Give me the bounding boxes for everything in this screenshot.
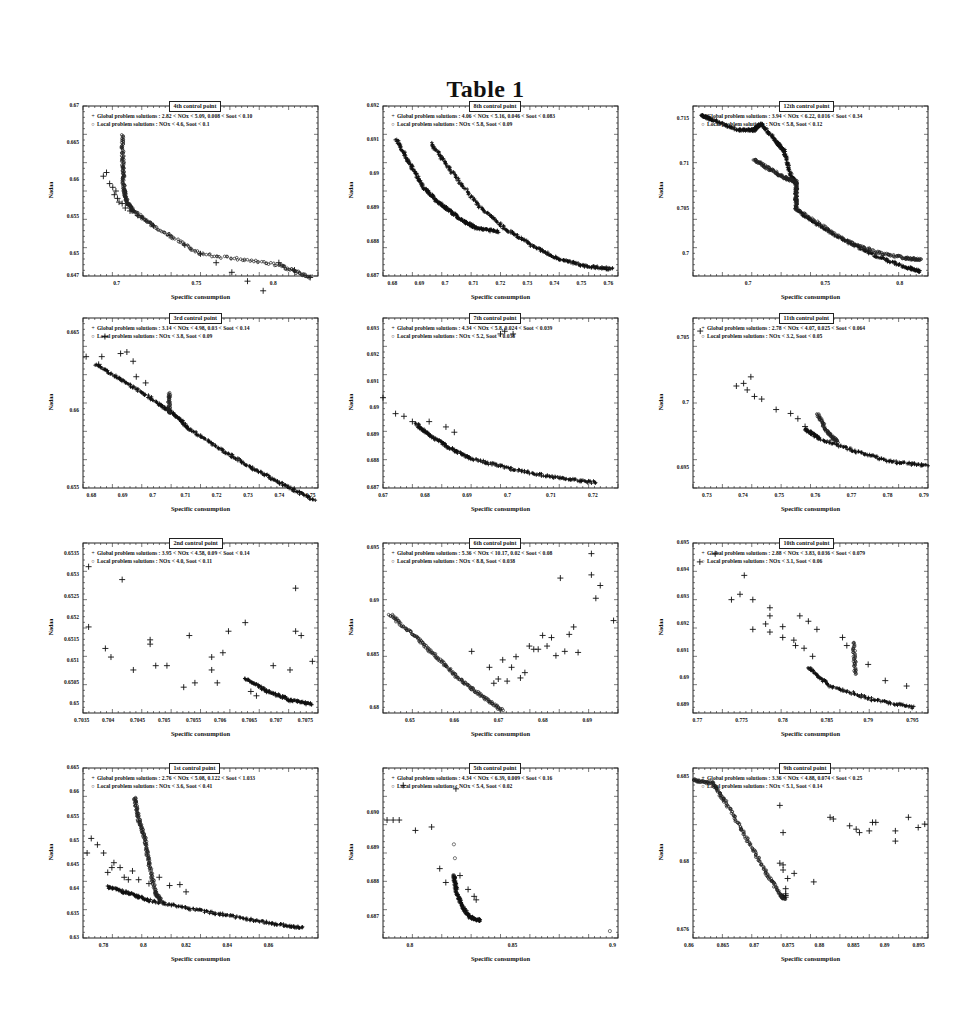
plot-area xyxy=(40,535,345,760)
y-tick-label: 0.690 xyxy=(367,809,379,815)
chart-title: 7th control point xyxy=(469,313,522,324)
legend-local-label: Local problem solutions : NOx < 5.4, Soo… xyxy=(397,783,512,789)
y-tick-label: 0.63 xyxy=(69,934,79,940)
chart-legend: +Global problem solutions : 4.34 < NOx <… xyxy=(389,324,552,340)
plus-marker-icon: + xyxy=(89,112,97,120)
x-axis-label: Specific consumption xyxy=(776,505,846,512)
chart-legend: +Global problem solutions : 2.78 < NOx <… xyxy=(699,324,865,340)
x-tick-label: 0.7075 xyxy=(298,717,313,723)
legend-local-label: Local problem solutions : NOx < 8.8, Soo… xyxy=(397,558,515,564)
legend-local-label: Local problem solutions : NOx < 4.0, Soo… xyxy=(97,558,212,564)
x-tick-label: 0.77 xyxy=(847,492,857,498)
y-tick-label: 0.687 xyxy=(367,484,379,490)
x-tick-label: 0.706 xyxy=(214,717,226,723)
chart-legend: +Global problem solutions : 4.06 < NOx <… xyxy=(389,112,555,128)
y-tick-label: 0.691 xyxy=(367,378,379,384)
chart-title: 2nd control point xyxy=(169,538,223,549)
legend-local-label: Local problem solutions : NOx < 4.6, Soo… xyxy=(97,121,210,127)
legend-local-label: Local problem solutions : NOx < 5.8, Soo… xyxy=(397,121,512,127)
legend-local: ○Local problem solutions : NOx < 5.2, So… xyxy=(389,332,552,340)
y-axis-label: Nadaa xyxy=(658,182,664,199)
x-tick-label: 0.68 xyxy=(388,280,398,286)
x-tick-label: 0.705 xyxy=(158,717,170,723)
y-axis-label: Nadaa xyxy=(658,394,664,411)
y-axis-label: Nadaa xyxy=(48,844,54,861)
y-tick-label: 0.68 xyxy=(679,858,689,864)
x-tick-label: 0.8 xyxy=(140,942,147,948)
legend-global-label: Global problem solutions : 2.82 < NOx < … xyxy=(97,113,252,119)
chart-legend: +Global problem solutions : 2.82 < NOx <… xyxy=(89,112,252,128)
plus-marker-icon: + xyxy=(389,324,397,332)
legend-global-label: Global problem solutions : 3.36 < NOx < … xyxy=(707,775,862,781)
legend-global-label: Global problem solutions : 2.76 < NOx < … xyxy=(97,775,255,781)
legend-local-label: Local problem solutions : NOx < 5.2, Soo… xyxy=(397,333,515,339)
y-tick-label: 0.66 xyxy=(69,788,79,794)
y-tick-label: 0.688 xyxy=(367,878,379,884)
y-tick-label: 0.705 xyxy=(677,334,689,340)
plus-marker-icon: + xyxy=(389,112,397,120)
legend-local: ○Local problem solutions : NOx < 3.8, So… xyxy=(89,332,250,340)
x-tick-label: 0.7 xyxy=(442,280,449,286)
y-tick-label: 0.665 xyxy=(67,139,79,145)
y-tick-label: 0.65 xyxy=(69,837,79,843)
x-tick-label: 0.75 xyxy=(774,492,784,498)
x-tick-label: 0.74 xyxy=(275,492,285,498)
y-tick-label: 0.685 xyxy=(367,651,379,657)
x-tick-label: 0.7055 xyxy=(186,717,201,723)
x-tick-label: 0.7 xyxy=(504,492,511,498)
chart-legend: +Global problem solutions : 3.95 < NOx <… xyxy=(89,549,250,565)
chart-title: 6th control point xyxy=(469,538,522,549)
plot-area xyxy=(340,760,645,985)
legend-local-label: Local problem solutions : NOx < 3.8, Soo… xyxy=(97,333,212,339)
x-tick-label: 0.8 xyxy=(406,942,413,948)
circle-marker-icon: ○ xyxy=(389,332,397,340)
y-tick-label: 0.652 xyxy=(67,614,79,620)
x-tick-label: 0.86 xyxy=(684,942,694,948)
legend-global-label: Global problem solutions : 4.06 < NOx < … xyxy=(397,113,555,119)
x-tick-label: 0.75 xyxy=(820,280,830,286)
x-tick-label: 0.68 xyxy=(538,717,548,723)
plus-marker-icon: + xyxy=(699,774,707,782)
chart-title: 3rd control point xyxy=(169,313,223,324)
plot-area xyxy=(650,535,955,760)
plus-marker-icon: + xyxy=(89,324,97,332)
chart-panel-p6: 0.650.660.670.680.690.680.6850.690.6956t… xyxy=(340,535,645,760)
x-axis-label: Specific consumption xyxy=(776,293,846,300)
legend-global-label: Global problem solutions : 4.34 < NOx < … xyxy=(397,775,552,781)
circle-marker-icon: ○ xyxy=(699,557,707,565)
x-tick-label: 0.7 xyxy=(113,280,120,286)
y-tick-label: 0.689 xyxy=(677,701,689,707)
y-tick-label: 0.653 xyxy=(67,571,79,577)
y-tick-label: 0.645 xyxy=(67,861,79,867)
y-tick-label: 0.695 xyxy=(677,464,689,470)
legend-global: +Global problem solutions : 3.95 < NOx <… xyxy=(89,549,250,557)
legend-local: ○Local problem solutions : NOx < 3.2, So… xyxy=(699,332,865,340)
x-tick-label: 0.72 xyxy=(496,280,506,286)
legend-global: +Global problem solutions : 3.94 < NOx <… xyxy=(699,112,862,120)
y-tick-label: 0.64 xyxy=(69,885,79,891)
x-tick-label: 0.73 xyxy=(523,280,533,286)
x-axis-label: Specific consumption xyxy=(466,955,536,962)
x-tick-label: 0.74 xyxy=(738,492,748,498)
circle-marker-icon: ○ xyxy=(89,120,97,128)
x-axis-label: Specific consumption xyxy=(166,505,236,512)
y-tick-label: 0.67 xyxy=(69,102,79,108)
plus-marker-icon: + xyxy=(389,549,397,557)
y-tick-label: 0.689 xyxy=(367,204,379,210)
x-tick-label: 0.72 xyxy=(212,492,222,498)
legend-global: +Global problem solutions : 2.88 < NOx <… xyxy=(699,549,865,557)
x-axis-label: Specific consumption xyxy=(166,730,236,737)
y-tick-label: 0.6525 xyxy=(64,593,79,599)
y-tick-label: 0.692 xyxy=(677,620,689,626)
y-tick-label: 0.65 xyxy=(69,700,79,706)
y-tick-label: 0.71 xyxy=(679,160,689,166)
x-tick-label: 0.79 xyxy=(919,492,929,498)
legend-global-label: Global problem solutions : 5.36 < NOx < … xyxy=(397,550,552,556)
y-tick-label: 0.655 xyxy=(67,813,79,819)
x-tick-label: 0.72 xyxy=(588,492,598,498)
plus-marker-icon: + xyxy=(699,549,707,557)
chart-panel-p10: 0.770.7750.780.7850.790.7950.6890.690.69… xyxy=(650,535,955,760)
y-tick-label: 0.665 xyxy=(67,329,79,335)
y-tick-label: 0.665 xyxy=(67,764,79,770)
y-tick-label: 0.7 xyxy=(682,399,689,405)
